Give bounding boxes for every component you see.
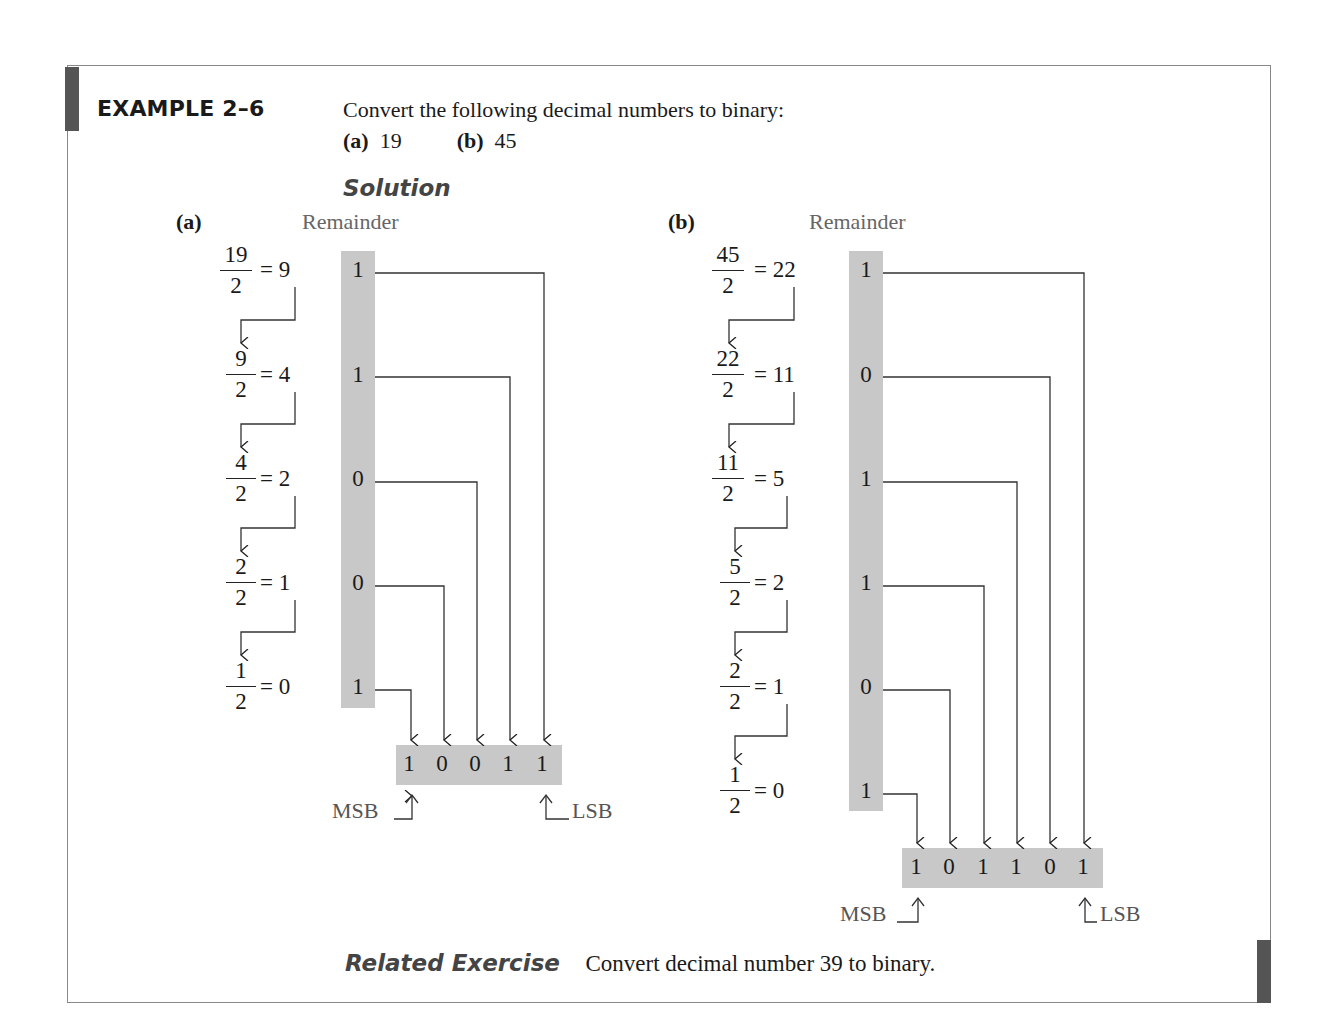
related-exercise: Related Exercise Convert decimal number … [345, 950, 935, 977]
connector-arrows [0, 0, 1336, 1036]
related-exercise-label: Related Exercise [345, 950, 560, 976]
related-exercise-text: Convert decimal number 39 to binary. [585, 951, 935, 976]
